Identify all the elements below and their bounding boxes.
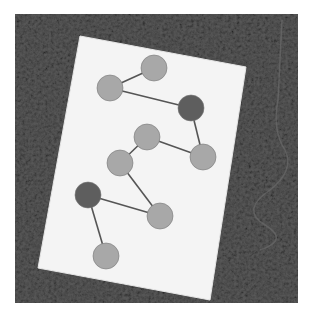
circle-node-light bbox=[97, 75, 123, 101]
circle-node-light bbox=[93, 243, 119, 269]
circle-node-dark bbox=[75, 182, 101, 208]
photo-scene bbox=[0, 0, 309, 317]
circle-node-dark bbox=[178, 95, 204, 121]
circle-node-light bbox=[134, 124, 160, 150]
circle-node-light bbox=[141, 55, 167, 81]
circle-node-light bbox=[190, 144, 216, 170]
circle-node-light bbox=[107, 150, 133, 176]
circle-node-light bbox=[147, 203, 173, 229]
